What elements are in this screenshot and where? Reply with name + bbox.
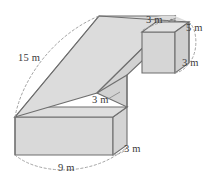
dimension-label-notch-3m: 3 m <box>92 95 109 106</box>
solid-drawing <box>0 0 213 181</box>
solid-body <box>15 16 189 155</box>
dimension-label-15m: 15 m <box>18 53 40 64</box>
riser-block-front-face <box>142 32 175 73</box>
front-left-face <box>15 117 113 155</box>
dimension-label-depth-3m-bottom: 3 m <box>124 144 141 155</box>
dimension-label-top-3m: 3 m <box>146 15 163 26</box>
dimension-label-height-5m: 5 m <box>186 23 203 34</box>
geometry-figure: 15 m 9 m 3 m 3 m 3 m 5 m 3 m <box>0 0 213 181</box>
dimension-label-right-3m: 3 m <box>182 58 199 69</box>
dimension-label-9m: 9 m <box>58 163 75 174</box>
